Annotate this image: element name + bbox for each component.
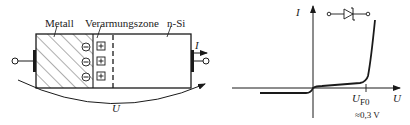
- iv-characteristic-chart: I U U F0 ≈0,3 V: [232, 6, 402, 120]
- left-terminal: [12, 58, 18, 64]
- y-axis-label: I: [295, 6, 301, 18]
- positive-charges: [97, 42, 105, 80]
- threshold-subscript: F0: [360, 97, 370, 107]
- metal-label: Metall: [45, 17, 74, 29]
- right-terminal: [203, 58, 209, 64]
- x-axis-label: U: [393, 92, 402, 104]
- schottky-diode-symbol-icon: [327, 8, 370, 20]
- characteristic-curve: [260, 20, 375, 93]
- schottky-structure: I Metall Verarmungszone n-Si U: [12, 17, 209, 114]
- negative-charges: [82, 43, 90, 81]
- depletion-zone-label: Verarmungszone: [85, 17, 159, 29]
- voltage-label: U: [112, 102, 121, 114]
- current-label: I: [194, 39, 200, 51]
- threshold-value: ≈0,3 V: [355, 110, 380, 120]
- n-si-label: n-Si: [167, 17, 185, 29]
- schottky-diode-figure: I Metall Verarmungszone n-Si U I U U F0 …: [0, 0, 410, 125]
- right-contact: [191, 50, 194, 72]
